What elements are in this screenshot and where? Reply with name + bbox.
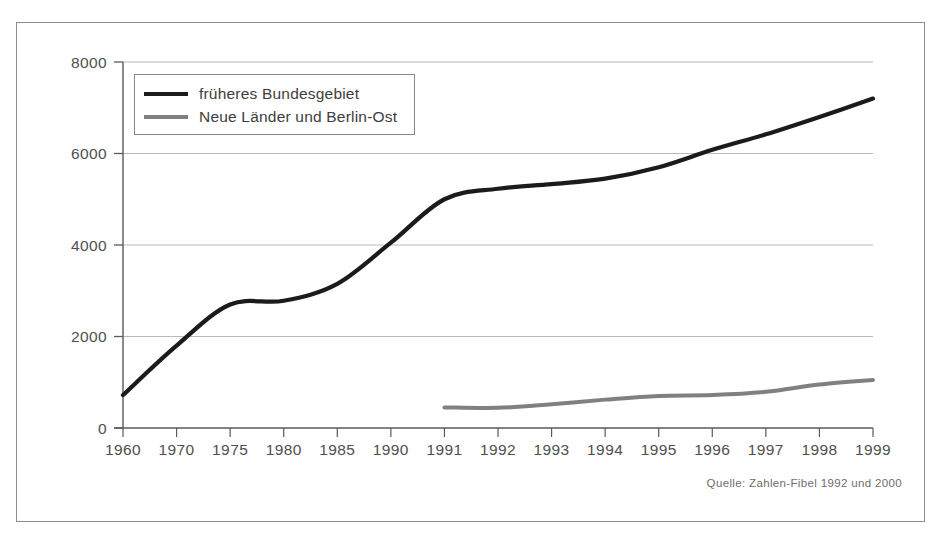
source-note: Quelle: Zahlen-Fibel 1992 und 2000 (707, 477, 902, 489)
y-axis-tick-label: 0 (98, 420, 107, 437)
x-axis-tick-label: 1994 (587, 441, 623, 458)
series-line-east (444, 380, 873, 408)
legend-swatch-east (144, 115, 188, 119)
x-axis-tick-label: 1992 (480, 441, 516, 458)
chart-legend: früheres Bundesgebiet Neue Länder und Be… (134, 74, 415, 135)
y-axis-tick-label: 2000 (71, 328, 107, 345)
legend-item-east: Neue Länder und Berlin-Ost (144, 105, 414, 128)
x-axis-tick-label: 1960 (105, 441, 141, 458)
x-axis-tick-label: 1995 (641, 441, 677, 458)
x-axis-tick-label: 1980 (266, 441, 302, 458)
x-axis-tick-label: 1991 (426, 441, 462, 458)
x-axis-tick-label: 1985 (319, 441, 355, 458)
legend-label-west: früheres Bundesgebiet (199, 85, 359, 103)
x-axis-tick-label: 1998 (801, 441, 837, 458)
y-axis-tick-label: 8000 (71, 54, 107, 71)
x-axis-tick-label: 1993 (534, 441, 570, 458)
x-axis-tick-label: 1975 (212, 441, 248, 458)
figure-root: 0200040006000800019601970197519801985199… (0, 0, 944, 545)
x-axis-tick-label: 1999 (855, 441, 891, 458)
y-axis-tick-label: 6000 (71, 145, 107, 162)
series-line-west (123, 99, 873, 395)
chart-frame: 0200040006000800019601970197519801985199… (16, 22, 925, 522)
x-axis-tick-label: 1996 (694, 441, 730, 458)
x-axis-tick-label: 1997 (748, 441, 784, 458)
legend-item-west: früheres Bundesgebiet (144, 82, 414, 105)
legend-label-east: Neue Länder und Berlin-Ost (199, 108, 397, 126)
x-axis-tick-label: 1970 (159, 441, 195, 458)
legend-swatch-west (144, 92, 188, 96)
y-axis-tick-label: 4000 (71, 237, 107, 254)
x-axis-tick-label: 1990 (373, 441, 409, 458)
